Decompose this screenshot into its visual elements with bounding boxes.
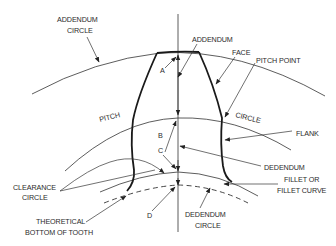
label-theoretical-1: THEORETICAL (36, 217, 85, 226)
leader-b (165, 121, 176, 152)
leader-dedendum (180, 146, 261, 166)
dedendum-circle-arc (104, 185, 248, 203)
label-letter-d: D (147, 211, 152, 220)
label-letter-a: A (160, 66, 165, 75)
leader-clearance-curve (60, 159, 164, 191)
label-flank: FLANK (296, 129, 319, 138)
leader-c (163, 155, 176, 169)
label-letter-c: C (158, 146, 163, 155)
label-clearance-2: CIRCLE (22, 193, 48, 202)
label-addendum-circle-1: ADDENDUM (57, 15, 98, 24)
label-dedendum: DEDENDUM (264, 163, 305, 172)
label-addendum-circle-2: CIRCLE (67, 26, 93, 35)
label-circle: CIRCLE (235, 110, 262, 125)
leader-flank (225, 131, 292, 140)
leader-addendum-circle (87, 37, 99, 62)
tooth-profile-right (199, 52, 232, 182)
label-face: FACE (232, 48, 251, 57)
label-pitch-point: PITCH POINT (256, 56, 301, 65)
label-theoretical-2: BOTTOM OF TOOTH (25, 228, 93, 237)
label-fillet-1: FILLET OR (284, 175, 319, 184)
gear-tooth-diagram: ADDENDUM CIRCLE ADDENDUM FACE PITCH POIN… (0, 0, 336, 246)
label-pitch: PITCH (98, 110, 121, 124)
leader-a (165, 57, 176, 68)
leader-addendum (178, 44, 197, 77)
label-fillet-2: FILLET CURVE (277, 186, 327, 195)
label-dedendum-circle-2: CIRCLE (195, 221, 221, 230)
label-addendum: ADDENDUM (192, 35, 233, 44)
leader-dedendum-circle (200, 188, 210, 208)
label-letter-b: B (158, 131, 163, 140)
leader-d (152, 187, 175, 211)
leader-face (216, 57, 235, 84)
label-dedendum-circle-1: DEDENDUM (185, 210, 226, 219)
leader-pitch-point (225, 63, 255, 117)
leader-theoretical (86, 196, 126, 222)
label-clearance-1: CLEARANCE (13, 183, 56, 192)
